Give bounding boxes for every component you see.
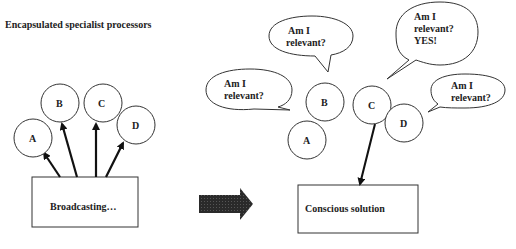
svg-text:D: D — [400, 118, 407, 129]
processor-d-left: D — [117, 106, 155, 144]
processor-a-right: A — [288, 121, 326, 159]
arrow-to-a — [44, 153, 60, 177]
broadcasting-box: Broadcasting… — [32, 177, 138, 227]
processor-d-right: D — [385, 104, 423, 142]
speech-bubble-b: Am I relevant? — [269, 16, 353, 72]
diagram-canvas: Encapsulated specialist processors Broad… — [0, 0, 516, 249]
conscious-solution-box: Conscious solution — [298, 185, 418, 233]
svg-text:B: B — [56, 98, 63, 109]
conscious-solution-label: Conscious solution — [305, 203, 385, 214]
svg-text:A: A — [29, 133, 37, 144]
diagram-title: Encapsulated specialist processors — [5, 19, 152, 30]
right-processors: B A C D — [288, 83, 423, 159]
svg-text:Am I: Am I — [414, 11, 436, 22]
svg-text:B: B — [321, 97, 328, 108]
processor-c-left: C — [84, 84, 122, 122]
broadcasting-label: Broadcasting… — [50, 201, 117, 212]
svg-text:A: A — [303, 135, 311, 146]
speech-bubble-d: Am I relevant? — [428, 74, 505, 112]
left-processors: A B C D — [14, 84, 155, 157]
svg-text:relevant?: relevant? — [224, 90, 264, 101]
svg-text:relevant?: relevant? — [451, 92, 491, 103]
svg-text:YES!: YES! — [414, 35, 437, 46]
speech-bubble-a: Am I relevant? — [206, 69, 292, 110]
svg-text:Am I: Am I — [288, 25, 310, 36]
processor-b-left: B — [41, 84, 79, 122]
svg-text:C: C — [98, 98, 105, 109]
processor-b-right: B — [306, 83, 344, 121]
arrow-c-to-solution — [360, 124, 375, 184]
svg-text:Am I: Am I — [451, 80, 473, 91]
arrow-to-d — [106, 143, 123, 177]
right-arrow-icon — [199, 188, 253, 220]
speech-bubble-c: Am I relevant? YES! — [387, 2, 478, 79]
broadcast-arrows — [44, 124, 123, 177]
svg-text:C: C — [368, 100, 375, 111]
arrow-to-b — [62, 124, 77, 177]
svg-text:relevant?: relevant? — [414, 23, 454, 34]
svg-text:D: D — [132, 120, 139, 131]
svg-text:relevant?: relevant? — [286, 37, 326, 48]
svg-text:Am I: Am I — [224, 78, 246, 89]
processor-a-left: A — [14, 119, 52, 157]
